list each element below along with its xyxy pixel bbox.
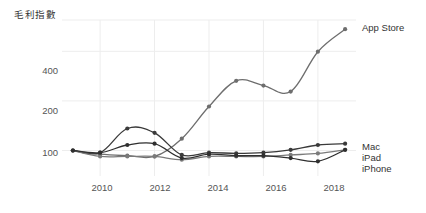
series-label-mac: Mac xyxy=(362,141,380,152)
data-point xyxy=(71,148,75,152)
data-point xyxy=(125,126,129,130)
x-axis-tick-2018: 2018 xyxy=(314,182,354,193)
data-point xyxy=(343,27,347,31)
data-point xyxy=(316,50,320,54)
series-label-ipad: iPad xyxy=(362,152,381,163)
data-point xyxy=(261,154,265,158)
x-axis-tick-2012: 2012 xyxy=(140,182,180,193)
x-axis-tick-2010: 2010 xyxy=(82,182,122,193)
data-point xyxy=(261,83,265,87)
data-point xyxy=(125,154,129,158)
data-point xyxy=(316,159,320,163)
data-point xyxy=(180,137,184,141)
data-point xyxy=(289,89,293,93)
data-point xyxy=(98,154,102,158)
data-point xyxy=(289,148,293,152)
series-label-app-store: App Store xyxy=(362,22,404,33)
data-point xyxy=(234,79,238,83)
data-point xyxy=(152,142,156,146)
y-axis-tick-100: 100 xyxy=(18,147,58,158)
data-point xyxy=(234,154,238,158)
data-point xyxy=(343,148,347,152)
x-axis-tick-2016: 2016 xyxy=(256,182,296,193)
data-point xyxy=(180,156,184,160)
data-point xyxy=(152,154,156,158)
y-axis-tick-200: 200 xyxy=(18,105,58,116)
data-point xyxy=(316,151,320,155)
x-axis-tick-2014: 2014 xyxy=(198,182,238,193)
data-point xyxy=(289,156,293,160)
data-point xyxy=(152,131,156,135)
data-point xyxy=(343,142,347,146)
data-point xyxy=(207,104,211,108)
data-point xyxy=(316,143,320,147)
series-label-iphone: iPhone xyxy=(362,163,392,174)
data-point xyxy=(98,151,102,155)
gross-profit-index-chart: 毛利指數 400 200 100 2010 2012 2014 2016 201… xyxy=(0,0,426,213)
y-axis-tick-400: 400 xyxy=(18,65,58,76)
data-point xyxy=(125,143,129,147)
data-point xyxy=(207,152,211,156)
